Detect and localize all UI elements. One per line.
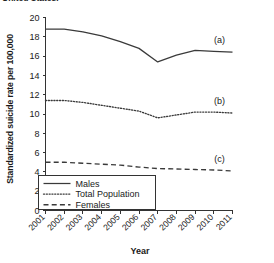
series-tag-c: (c) <box>214 154 225 164</box>
y-tick-label: 8 <box>34 129 39 139</box>
chart-legend[interactable]: MalesTotal PopulationFemales <box>39 176 156 210</box>
y-tick-label: 16 <box>29 51 39 61</box>
y-tick-label: 14 <box>29 71 39 81</box>
x-tick-label: 2010 <box>195 212 216 233</box>
series-annotations: (a)(b)(c) <box>214 35 225 164</box>
x-tick-label: 2004 <box>82 212 103 233</box>
x-tick-label: 2011 <box>214 212 234 232</box>
y-tick-label: 20 <box>29 13 39 23</box>
y-tick-label: 10 <box>29 109 39 119</box>
x-tick-label: 2007 <box>139 212 160 233</box>
series-line-total-population <box>46 100 233 117</box>
data-series-group <box>46 29 233 171</box>
x-tick-label: 2006 <box>120 212 141 233</box>
series-line-females <box>46 162 233 171</box>
line-chart: 02468101214161820 2001200220032004200520… <box>0 0 274 263</box>
x-tick-label: 2005 <box>101 212 122 233</box>
y-tick-label: 6 <box>34 148 39 158</box>
series-line-males <box>46 29 233 62</box>
y-tick-labels: 02468101214161820 <box>29 13 39 216</box>
x-tick-label: 2003 <box>64 212 85 233</box>
x-tick-label: 2009 <box>176 212 197 233</box>
series-tag-a: (a) <box>214 35 225 45</box>
x-tick-label: 2001 <box>26 212 47 233</box>
figure-container: United States. Standardized suicide rate… <box>0 0 274 263</box>
series-tag-b: (b) <box>214 96 225 106</box>
legend-label[interactable]: Females <box>76 200 111 210</box>
x-tick-label: 2008 <box>157 212 178 233</box>
x-tick-labels: 2001200220032004200520062007200820092010… <box>26 212 234 233</box>
y-tick-label: 18 <box>29 32 39 42</box>
legend-label[interactable]: Males <box>76 179 101 189</box>
y-tick-label: 12 <box>29 90 39 100</box>
legend-label[interactable]: Total Population <box>76 189 140 199</box>
x-tick-label: 2002 <box>45 212 66 233</box>
